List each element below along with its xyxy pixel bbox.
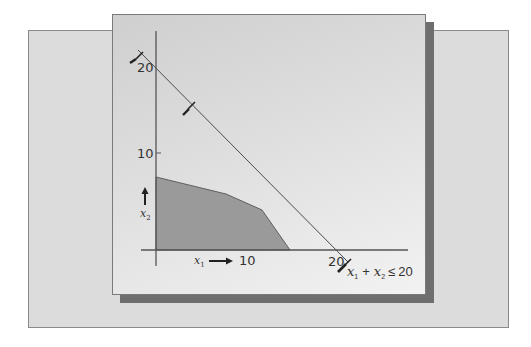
y-axis-arrow-icon — [142, 187, 149, 205]
y-axis-variable: x2 — [140, 207, 151, 222]
x-tick-label-10: 10 — [239, 253, 256, 268]
x-tick-label-20: 20 — [328, 254, 345, 269]
constraint-label: x1+x2≤20 — [347, 264, 413, 280]
lp-graph: 20 10 10 20 x1 x2 x1+x2≤20 — [0, 0, 531, 347]
y-tick-label-10: 10 — [137, 146, 154, 161]
feasible-region — [156, 177, 290, 250]
x-axis-arrow-icon — [209, 258, 233, 265]
y-tick-label-20: 20 — [137, 60, 154, 75]
constraint-direction-marker-mid — [183, 102, 195, 115]
x-axis-variable: x1 — [194, 254, 205, 269]
